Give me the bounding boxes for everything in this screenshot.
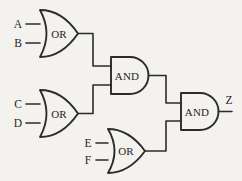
- wire-or3-to-and2: [145, 121, 181, 151]
- wire-or2-to-and1: [78, 85, 111, 114]
- gate-or3[interactable]: OR: [108, 129, 145, 173]
- output-label-z: Z: [225, 94, 232, 106]
- gate-or2-label: OR: [51, 108, 67, 120]
- circuit-diagram-canvas: OR OR OR AND AND: [0, 0, 242, 181]
- input-label-d: D: [14, 117, 22, 129]
- logic-circuit-svg: OR OR OR AND AND: [0, 0, 242, 181]
- gate-or1[interactable]: OR: [40, 10, 78, 57]
- interconnect-wires: [78, 34, 232, 152]
- input-label-e: E: [84, 137, 91, 149]
- gate-and2-label: AND: [185, 106, 209, 118]
- wire-and1-to-and2: [149, 76, 182, 104]
- input-label-f: F: [85, 154, 91, 166]
- input-label-a: A: [14, 18, 23, 30]
- wire-or1-to-and1: [78, 34, 111, 67]
- gate-and1-label: AND: [115, 70, 139, 82]
- gate-or2[interactable]: OR: [40, 90, 78, 137]
- input-label-c: C: [14, 98, 22, 110]
- gate-and1[interactable]: AND: [111, 57, 149, 94]
- input-wires: [26, 24, 108, 160]
- gate-or3-label: OR: [118, 145, 134, 157]
- gate-or1-label: OR: [51, 28, 67, 40]
- input-label-b: B: [14, 37, 22, 49]
- gate-and2[interactable]: AND: [181, 93, 219, 130]
